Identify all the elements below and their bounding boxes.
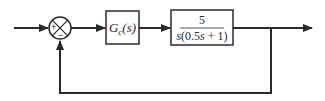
controller-symbol: G — [109, 20, 118, 35]
plant-numerator: 5 — [171, 13, 233, 27]
minus-sign: − — [58, 31, 63, 40]
feedback-path — [60, 28, 271, 93]
block-diagram: Gc(s) 5 s(0.5s + 1) + − — [0, 0, 325, 101]
plus-sign: + — [51, 23, 56, 32]
diagram-lines — [0, 0, 325, 101]
plant-denominator: s(0.5s + 1) — [171, 29, 233, 43]
controller-argument: (s) — [122, 20, 136, 35]
denominator-suffix: + 1) — [205, 29, 228, 43]
controller-label: Gc(s) — [106, 11, 139, 44]
denominator-body: (0.5 — [181, 29, 200, 43]
